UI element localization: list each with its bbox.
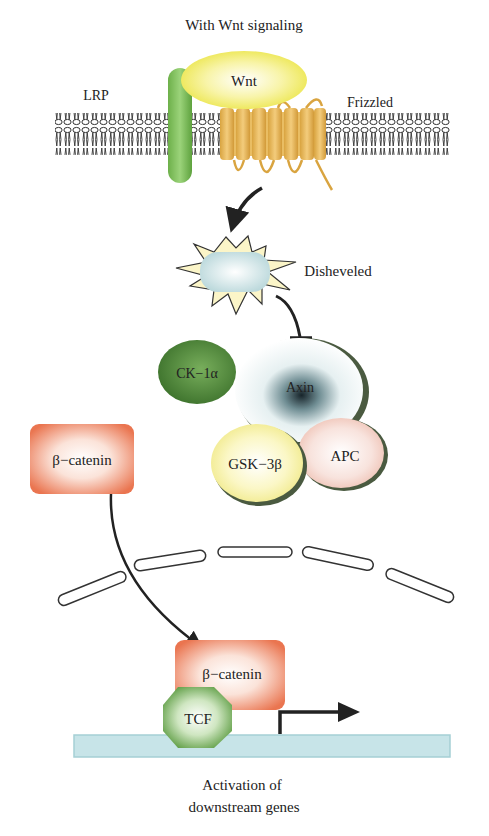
- caption-line1: Activation of: [202, 777, 282, 793]
- apc-label: APC: [330, 448, 359, 464]
- disheveled-label: Disheveled: [304, 263, 372, 279]
- inhibition-line-disheveled-to-axin: [276, 296, 300, 337]
- frizzled-receptor: [220, 99, 332, 190]
- caption-line2: downstream genes: [188, 799, 299, 815]
- beta-catenin-cytoplasmic-label: β−catenin: [52, 452, 112, 468]
- wnt-signaling-diagram: With Wnt signaling LRP Frizzled Wnt Dish…: [0, 0, 489, 836]
- frizzled-label: Frizzled: [347, 95, 393, 110]
- translocation-arrow: [111, 494, 200, 646]
- gsk3b-label: GSK−3β: [228, 456, 282, 472]
- dna-strand: [74, 735, 450, 757]
- disheveled-protein: [176, 236, 296, 314]
- beta-catenin-nuclear-label: β−catenin: [202, 666, 262, 682]
- tcf-label: TCF: [184, 711, 212, 727]
- lrp-label: LRP: [83, 88, 109, 103]
- transcription-start-arrow-icon: [280, 702, 360, 734]
- ck1a-label: CK−1α: [176, 366, 218, 381]
- activation-arrow-frizzled-to-disheveled: [232, 188, 262, 228]
- nuclear-envelope: [57, 546, 456, 607]
- wnt-label: Wnt: [231, 73, 258, 89]
- diagram-title: With Wnt signaling: [185, 17, 303, 33]
- axin-label: Axin: [286, 380, 314, 395]
